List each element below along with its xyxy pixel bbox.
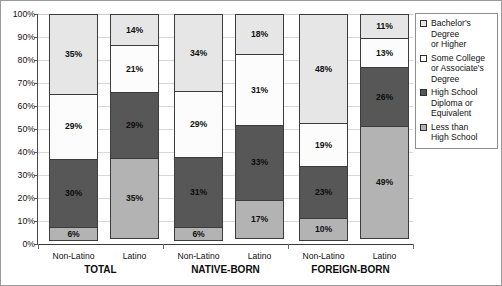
bar-segment-value-label: 19% [315, 141, 332, 150]
bar-segment-value-label: 17% [251, 215, 268, 224]
legend-swatch-icon [420, 89, 427, 96]
bar-segment: 29% [110, 92, 159, 159]
y-tick-mark [34, 83, 38, 84]
bar-segment: 31% [174, 157, 223, 228]
y-tick-label: 50% [1, 125, 35, 134]
stacked-bar: 11%13%26%49% [360, 14, 409, 244]
chart-legend: Bachelor's Degree or HigherSome College … [415, 13, 498, 149]
bar-segment-value-label: 23% [315, 188, 332, 197]
bar-segment-value-label: 33% [251, 158, 268, 167]
legend-label: High School Diploma or Equivalent [431, 87, 477, 119]
bar-segment: 23% [299, 166, 348, 219]
bar-segment: 6% [174, 227, 223, 241]
bar-segment: 31% [235, 54, 284, 125]
bar-segment: 48% [299, 14, 348, 124]
legend-label: Bachelor's Degree or Higher [431, 18, 471, 50]
bar-segment: 18% [235, 14, 284, 55]
y-tick-mark [34, 37, 38, 38]
legend-item[interactable]: Some College or Associate's Degree [420, 53, 494, 85]
y-tick-mark [34, 175, 38, 176]
bar-segment-value-label: 21% [126, 65, 143, 74]
bar-segment: 35% [49, 14, 98, 95]
stacked-bar: 34%29%31%6% [174, 14, 223, 244]
bar-segment: 14% [110, 14, 159, 46]
legend-label: Less than High School [431, 122, 477, 143]
y-tick-mark [34, 221, 38, 222]
bar-segment: 33% [235, 125, 284, 201]
x-group-label: TOTAL [41, 264, 161, 275]
x-axis-group-tick [163, 244, 164, 249]
bar-segment: 17% [235, 200, 284, 239]
bar-segment-value-label: 30% [65, 189, 82, 198]
bar-segment: 35% [110, 158, 159, 239]
y-tick-mark [34, 129, 38, 130]
bar-segment-value-label: 31% [190, 188, 207, 197]
x-axis-group-tick [288, 244, 289, 249]
y-tick-mark [34, 152, 38, 153]
x-group-label: FOREIGN-BORN [291, 264, 411, 275]
legend-swatch-icon [420, 124, 427, 131]
y-tick-label: 70% [1, 79, 35, 88]
y-tick-mark [34, 106, 38, 107]
y-tick-label: 0% [1, 240, 35, 249]
bar-segment-value-label: 26% [376, 93, 393, 102]
bar-segment-value-label: 18% [251, 30, 268, 39]
stacked-bar: 48%19%23%10% [299, 14, 348, 244]
stacked-bar: 18%31%33%17% [235, 14, 284, 244]
bar-segment-value-label: 49% [376, 178, 393, 187]
bar-segment: 49% [360, 126, 409, 239]
bar-segment-value-label: 6% [67, 230, 79, 239]
bar-segment: 29% [49, 94, 98, 161]
bar-segment: 13% [360, 38, 409, 68]
bar-segment: 11% [360, 14, 409, 39]
plot-area: 35%29%30%6%14%21%29%35%34%29%31%6%18%31%… [38, 14, 413, 244]
bar-segment-value-label: 35% [65, 50, 82, 59]
bar-segment: 30% [49, 159, 98, 228]
y-tick-label: 10% [1, 217, 35, 226]
x-axis-group-tick [38, 244, 39, 249]
bar-segment: 6% [49, 227, 98, 241]
bar-segment-value-label: 34% [190, 49, 207, 58]
stacked-bar: 35%29%30%6% [49, 14, 98, 244]
y-tick-label: 40% [1, 148, 35, 157]
bar-segment: 19% [299, 123, 348, 167]
bar-segment-value-label: 29% [126, 121, 143, 130]
bar-segment-value-label: 35% [126, 194, 143, 203]
y-tick-label: 80% [1, 56, 35, 65]
bar-segment: 29% [174, 91, 223, 158]
y-tick-mark [34, 198, 38, 199]
y-tick-mark [34, 14, 38, 15]
chart-frame: 100%90%80%70%60%50%40%30%20%10%0% 35%29%… [0, 0, 502, 286]
y-tick-label: 60% [1, 102, 35, 111]
x-category-label-latino: Latino [345, 251, 425, 261]
x-group-label: NATIVE-BORN [166, 264, 286, 275]
bar-segment-value-label: 48% [315, 65, 332, 74]
bar-segment-value-label: 6% [192, 230, 204, 239]
y-axis-tick-labels: 100%90%80%70%60%50%40%30%20%10%0% [1, 14, 35, 244]
x-axis-group-tick [413, 244, 414, 249]
x-axis-line [37, 244, 414, 245]
bar-segment-value-label: 11% [376, 22, 392, 31]
legend-item[interactable]: Bachelor's Degree or Higher [420, 18, 494, 50]
bar-segment-value-label: 29% [65, 122, 82, 131]
bar-segment-value-label: 29% [190, 120, 207, 129]
y-tick-label: 100% [1, 10, 35, 19]
bar-segment: 34% [174, 14, 223, 92]
legend-swatch-icon [420, 55, 427, 62]
y-tick-mark [34, 60, 38, 61]
bar-segment-value-label: 31% [251, 86, 268, 95]
legend-swatch-icon [420, 20, 427, 27]
bar-segment: 21% [110, 45, 159, 93]
bar-segment-value-label: 13% [376, 49, 393, 58]
y-tick-label: 90% [1, 33, 35, 42]
legend-item[interactable]: Less than High School [420, 122, 494, 143]
legend-item[interactable]: High School Diploma or Equivalent [420, 87, 494, 119]
y-tick-label: 30% [1, 171, 35, 180]
bar-segment: 26% [360, 67, 409, 127]
bar-segment: 10% [299, 218, 348, 241]
y-tick-label: 20% [1, 194, 35, 203]
bar-segment-value-label: 14% [126, 26, 143, 35]
stacked-bar: 14%21%29%35% [110, 14, 159, 244]
bar-segment-value-label: 10% [315, 225, 332, 234]
legend-label: Some College or Associate's Degree [431, 53, 485, 85]
